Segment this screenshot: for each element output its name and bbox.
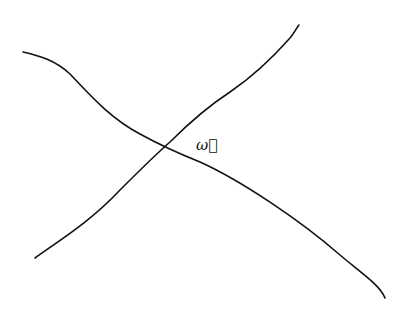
crossing-lines-drawing <box>0 0 405 319</box>
line-b <box>35 25 299 258</box>
diagram-canvas: ω⃗ <box>0 0 405 319</box>
omega-vector-label: ω⃗ <box>196 138 217 153</box>
line-a <box>23 52 385 298</box>
